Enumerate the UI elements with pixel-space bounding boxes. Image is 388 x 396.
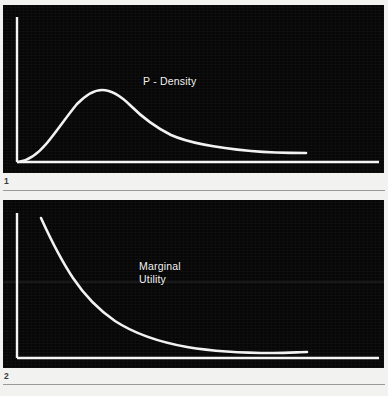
figure-p-density: P - Density 1 (0, 0, 388, 195)
curve-label-2: Marginal Utility (139, 260, 181, 286)
plot-panel-1: P - Density (3, 5, 384, 173)
caption-rule-2 (3, 384, 385, 385)
caption-rule-1 (3, 190, 385, 191)
plot-panel-2: Marginal Utility (3, 200, 384, 368)
figure-number-1: 1 (4, 176, 9, 186)
figure-marginal-utility: Marginal Utility 2 (0, 196, 388, 396)
figure-page: P - Density 1 Marginal Utility 2 (0, 0, 388, 396)
caption-strip-1: 1 (0, 173, 388, 195)
figure-number-2: 2 (4, 371, 9, 381)
plot-area-1 (3, 5, 384, 173)
plot-area-2 (3, 200, 384, 368)
curve-label-1: P - Density (143, 75, 196, 88)
density-curve (18, 90, 306, 162)
caption-strip-2: 2 (0, 368, 388, 396)
